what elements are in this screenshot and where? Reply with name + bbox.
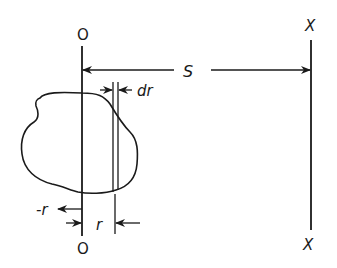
radius-label: r [96,216,103,234]
axis-o-top-label: O [77,26,89,44]
axis-o-bottom-label: O [77,240,89,258]
axis-x-bottom-label: X [302,236,314,254]
neg-radius-label: -r [36,201,48,219]
irregular-body-outline [22,93,138,194]
strip-width-label: dr [137,82,154,100]
axis-x-top-label: X [304,17,316,35]
diagram-canvas: O O X X S dr r -r [0,0,337,268]
distance-s-label: S [183,62,193,81]
